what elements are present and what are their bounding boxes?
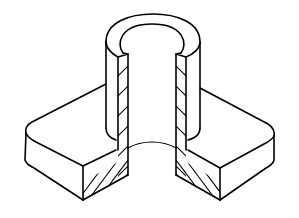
left-base-block [25,84,128,200]
rim-outer-arc [106,14,200,42]
bore-bottom-arc [128,142,176,148]
left-block-front-edges [25,133,83,200]
left-block-top-front-edge [26,133,83,166]
rim-right-edge [186,42,200,57]
right-block-top-inner-edge [188,150,220,168]
rim-left-cut [118,53,128,57]
right-block-front-edges [220,136,274,200]
right-block-top-back-edge [200,88,274,136]
tube-walls [106,42,200,175]
sectioned-part-drawing [0,0,299,218]
right-base-block [176,88,274,200]
rim-inner-arc [120,24,184,53]
left-base-hatching [78,160,138,200]
tube-left-fillet [106,128,116,140]
left-block-top-back-edge [26,84,106,133]
rim-right-cut [176,53,186,57]
left-block-top-inner-edge [83,150,116,166]
rim-left-edge [106,42,118,57]
right-block-top-front-edge [220,136,274,168]
tube-top-rim [106,14,200,57]
left-section-bottom-edge [83,175,128,200]
tube-right-fillet [188,128,200,140]
right-section-bottom-edge [176,175,220,200]
